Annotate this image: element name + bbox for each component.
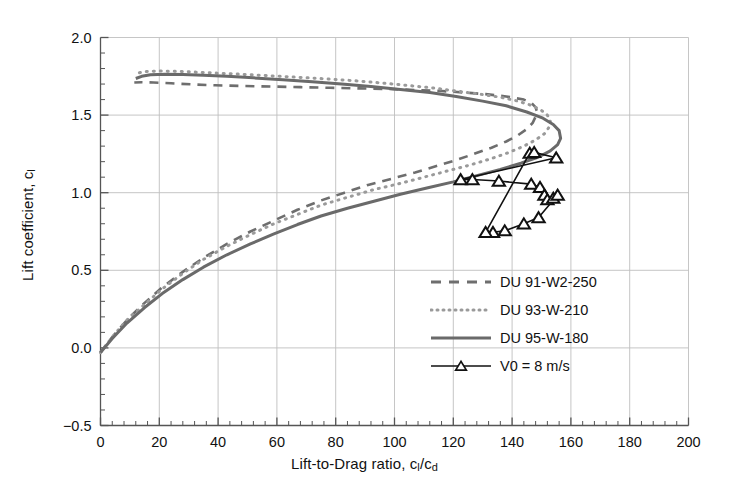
y-axis-tick-label: 0.0 [71, 340, 91, 356]
legend-key-icon [430, 330, 492, 346]
legend-key-swatch [430, 302, 492, 318]
y-axis-tick-label: 2.0 [71, 30, 91, 46]
legend-item-label: V0 = 8 m/s [500, 358, 570, 374]
legend-item: V0 = 8 m/s [430, 352, 660, 380]
x-axis-title-mid: /c [420, 455, 432, 472]
series-marker-triangle [499, 225, 511, 235]
legend-key-swatch [430, 330, 492, 346]
legend-item-label: DU 93-W-210 [500, 302, 588, 318]
legend-key-icon [430, 302, 492, 318]
x-axis-tick-label: 180 [618, 434, 642, 450]
chart-figure: Lift-to-Drag ratio, cl/cd Lift coefficie… [0, 0, 729, 504]
series-marker-triangle [518, 218, 530, 228]
x-axis-tick-label: 60 [269, 434, 285, 450]
y-axis-title: Lift coefficient, cl [19, 105, 37, 345]
chart-plot-area [0, 0, 729, 504]
x-axis-tick-label: 20 [151, 434, 167, 450]
x-axis-title-sub-d: d [432, 461, 438, 473]
x-axis-tick-label: 0 [96, 434, 104, 450]
x-axis-tick-label: 120 [441, 434, 465, 450]
x-axis-tick-label: 100 [382, 434, 406, 450]
legend-key-icon [430, 358, 492, 374]
legend-item-label: DU 95-W-180 [500, 330, 588, 346]
x-axis-tick-label: 200 [676, 434, 700, 450]
y-axis-tick-label: −0.5 [63, 418, 92, 434]
x-axis-title-main: Lift-to-Drag ratio, c [291, 455, 417, 472]
x-axis-title: Lift-to-Drag ratio, cl/cd [0, 455, 729, 473]
y-axis-tick-label: 1.0 [71, 185, 91, 201]
x-axis-tick-label: 140 [500, 434, 524, 450]
legend-key-icon [430, 274, 492, 290]
x-axis-tick-label: 160 [559, 434, 583, 450]
chart-legend: DU 91-W2-250DU 93-W-210DU 95-W-180V0 = 8… [430, 268, 660, 380]
legend-item: DU 93-W-210 [430, 296, 660, 324]
y-axis-title-main: Lift coefficient, c [19, 172, 36, 281]
x-axis-tick-label: 40 [210, 434, 226, 450]
y-axis-tick-label: 1.5 [71, 107, 91, 123]
y-axis-title-sub-l: l [25, 169, 37, 172]
legend-item: DU 95-W-180 [430, 324, 660, 352]
legend-item-label: DU 91-W2-250 [500, 274, 597, 290]
legend-key-swatch [430, 358, 492, 374]
y-axis-tick-label: 0.5 [71, 262, 91, 278]
legend-item: DU 91-W2-250 [430, 268, 660, 296]
x-axis-tick-label: 80 [328, 434, 344, 450]
legend-key-swatch [430, 274, 492, 290]
